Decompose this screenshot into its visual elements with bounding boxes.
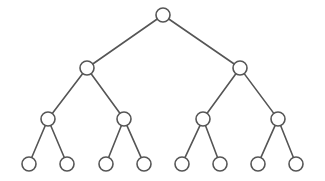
tree-edge xyxy=(185,125,200,157)
tree-canvas xyxy=(0,0,325,181)
tree-node-leaf xyxy=(251,157,265,171)
binary-tree-figure xyxy=(0,0,325,181)
tree-node-leaf xyxy=(175,157,189,171)
tree-edge xyxy=(207,74,236,114)
tree-edge xyxy=(169,19,234,64)
tree-edge xyxy=(244,74,274,114)
tree-node xyxy=(271,112,285,126)
tree-node-root xyxy=(156,8,170,22)
tree-node xyxy=(80,61,94,75)
tree-edge xyxy=(32,125,46,157)
tree-edge xyxy=(91,74,120,114)
node-layer xyxy=(22,8,303,171)
tree-edge xyxy=(109,126,122,158)
tree-node-leaf xyxy=(60,157,74,171)
tree-node-leaf xyxy=(213,157,227,171)
tree-node xyxy=(117,112,131,126)
tree-node-leaf xyxy=(289,157,303,171)
tree-edge xyxy=(281,126,294,158)
edge-layer xyxy=(32,19,294,158)
tree-edge xyxy=(93,19,158,64)
tree-edge xyxy=(205,126,217,158)
tree-node-leaf xyxy=(22,157,36,171)
tree-edge xyxy=(261,125,275,157)
tree-edge xyxy=(51,125,65,157)
tree-node xyxy=(233,61,247,75)
tree-node xyxy=(41,112,55,126)
tree-edge xyxy=(127,125,141,157)
tree-node-leaf xyxy=(137,157,151,171)
tree-edge xyxy=(52,74,83,114)
tree-node xyxy=(196,112,210,126)
tree-node-leaf xyxy=(99,157,113,171)
